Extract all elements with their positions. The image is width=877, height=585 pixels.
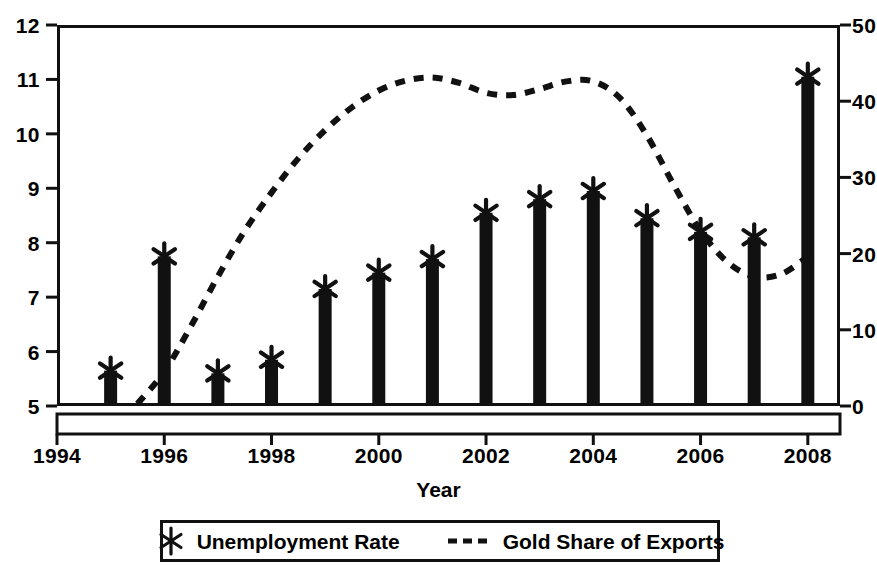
right-axis-tick-label: 50 [852, 15, 876, 36]
x-axis-tick-label: 2004 [569, 445, 617, 466]
dashed-line-icon [446, 533, 492, 549]
x-axis-tick-label: 2006 [677, 445, 725, 466]
right-axis-tick-label: 20 [852, 243, 876, 264]
legend-entry-gold-share-of-exports: Gold Share of Exports [446, 531, 725, 552]
right-axis-tick-label: 30 [852, 167, 876, 188]
legend-label-gold-share-of-exports: Gold Share of Exports [503, 531, 725, 552]
left-axis-tick-label: 10 [16, 123, 40, 144]
x-axis-tick-label: 1994 [33, 445, 81, 466]
left-axis-tick-label: 11 [17, 69, 40, 90]
left-axis-tick-label: 6 [28, 341, 40, 362]
left-axis-tick-label: 9 [28, 178, 40, 199]
x-axis-tick-label: 2002 [462, 445, 510, 466]
chart-figure: 56789101112 01020304050 1994199619982000… [0, 0, 877, 585]
x-axis-tick-label: 1996 [140, 445, 188, 466]
left-axis-ticks [46, 25, 57, 406]
legend-label-unemployment-rate: Unemployment Rate [197, 531, 400, 552]
chart-legend: Unemployment Rate Gold Share of Exports [160, 520, 720, 562]
asterisk-x-marker-icon [156, 526, 186, 556]
right-axis-tick-label: 40 [852, 91, 876, 112]
x-axis-label: Year [0, 479, 877, 500]
right-axis-tick-label: 10 [852, 319, 876, 340]
x-axis-tick-label: 2000 [355, 445, 403, 466]
right-axis-ticks [840, 25, 851, 406]
x-axis-tick-label: 1998 [248, 445, 296, 466]
plot-area-frame [57, 25, 840, 406]
x-axis-tick-label: 2008 [784, 445, 832, 466]
x-axis-box [57, 414, 840, 434]
left-axis-tick-label: 7 [28, 287, 40, 308]
left-axis-tick-label: 8 [28, 232, 40, 253]
left-axis-tick-label: 12 [16, 15, 40, 36]
legend-entry-unemployment-rate: Unemployment Rate [156, 526, 400, 556]
right-axis-tick-label: 0 [852, 396, 864, 417]
left-axis-tick-label: 5 [28, 396, 40, 417]
